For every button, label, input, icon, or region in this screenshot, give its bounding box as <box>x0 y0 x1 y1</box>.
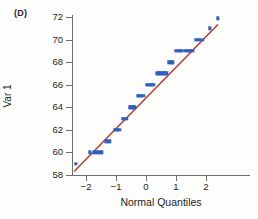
data-points <box>0 0 258 219</box>
data-point <box>118 128 121 131</box>
data-point <box>208 27 211 30</box>
data-point <box>100 151 103 154</box>
data-point <box>201 38 204 41</box>
plot-area: 5860626466687072 −2−1012 Var 1 Normal Qu… <box>0 0 258 219</box>
data-point <box>133 106 136 109</box>
data-point <box>88 151 91 154</box>
data-point <box>74 162 77 165</box>
data-point <box>165 72 168 75</box>
data-point <box>171 60 174 63</box>
data-point <box>190 49 193 52</box>
qq-plot-figure: (D) 5860626466687072 −2−1012 Var 1 Norma… <box>0 0 258 219</box>
data-point <box>142 94 145 97</box>
data-point <box>124 117 127 120</box>
data-point <box>216 16 219 19</box>
data-point <box>108 139 111 142</box>
data-point <box>152 83 155 86</box>
